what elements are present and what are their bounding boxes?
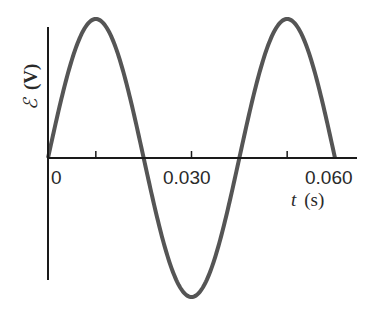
x-axis-var: t [291, 189, 297, 210]
chart: 0 0.030 0.060 t (s) ℰ (V) [0, 0, 367, 318]
y-axis-label: ℰ (V) [20, 64, 42, 110]
x-axis-label: t (s) [291, 189, 324, 211]
x-axis-unit: (s) [304, 189, 324, 211]
y-axis-var: ℰ [20, 96, 41, 110]
x-tick-label-0: 0 [51, 167, 62, 188]
y-axis-unit: (V) [20, 64, 42, 90]
x-ticks [96, 151, 287, 158]
x-tick-label-0.060: 0.060 [305, 167, 353, 188]
x-tick-label-0.030: 0.030 [163, 167, 211, 188]
